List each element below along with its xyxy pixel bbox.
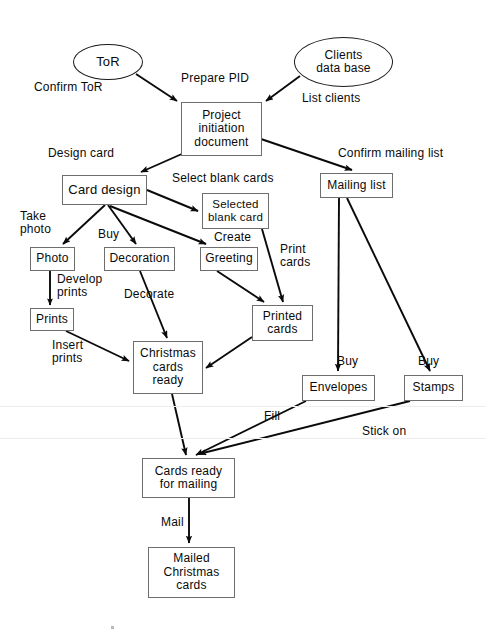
node-label-pid: Project initiation document xyxy=(192,109,250,149)
edge-label-create_greeting: Create xyxy=(214,231,251,244)
edge-label-fill: Fill xyxy=(264,410,280,423)
node-stamps[interactable]: Stamps xyxy=(404,375,463,401)
node-label-prints: Prints xyxy=(34,313,70,326)
scan-speck xyxy=(111,626,114,629)
edge-label-buy_decoration: Buy xyxy=(98,228,119,241)
node-label-envelopes: Envelopes xyxy=(308,381,370,394)
edge-label-confirm_tor: Confirm ToR xyxy=(34,81,103,94)
edge-label-take_photo: Take photo xyxy=(20,210,51,236)
scan-band-upper xyxy=(0,406,486,407)
node-cards_ready[interactable]: Cards ready for mailing xyxy=(142,458,235,498)
edge-label-mail: Mail xyxy=(161,516,184,529)
node-label-photo: Photo xyxy=(34,252,70,265)
node-label-selected_blank: Selected blank card xyxy=(206,198,265,224)
node-printed_cards[interactable]: Printed cards xyxy=(252,305,313,341)
node-label-cards_ready: Cards ready for mailing xyxy=(153,465,225,492)
node-envelopes[interactable]: Envelopes xyxy=(302,375,375,401)
node-label-printed_cards: Printed cards xyxy=(261,310,304,337)
node-label-clients_db: Clients data base xyxy=(314,49,373,76)
node-prints[interactable]: Prints xyxy=(30,308,74,331)
node-label-stamps: Stamps xyxy=(411,381,457,394)
edge-pid-to-card-design xyxy=(141,153,184,172)
node-decoration[interactable]: Decoration xyxy=(104,247,175,271)
node-selected_blank[interactable]: Selected blank card xyxy=(202,193,269,229)
node-photo[interactable]: Photo xyxy=(30,247,75,271)
node-label-card_design: Card design xyxy=(66,183,142,198)
edge-label-prepare_pid: Prepare PID xyxy=(181,72,249,85)
edge-card-design-to-selected-blank xyxy=(147,190,198,211)
edge-decoration-to-xmas-ready xyxy=(140,271,167,338)
node-label-tor: ToR xyxy=(94,55,122,70)
edge-label-buy_stamps: Buy xyxy=(418,355,439,368)
node-label-mailing_list: Mailing list xyxy=(325,179,387,192)
node-greeting[interactable]: Greeting xyxy=(200,247,258,271)
node-tor[interactable]: ToR xyxy=(73,44,143,80)
edge-greeting-to-printed-cards xyxy=(217,271,264,302)
flowchart-diagram: ToRClients data baseProject initiation d… xyxy=(0,0,486,636)
edge-label-print_cards: Print cards xyxy=(280,243,310,269)
edge-clients-db-to-pid xyxy=(266,76,300,101)
edge-xmas-ready-to-cards-ready xyxy=(172,394,186,455)
edge-mailing-list-to-envelopes xyxy=(338,198,339,371)
node-card_design[interactable]: Card design xyxy=(62,175,147,205)
edge-label-design_card: Design card xyxy=(48,147,114,160)
node-mailing_list[interactable]: Mailing list xyxy=(320,173,393,198)
node-pid[interactable]: Project initiation document xyxy=(181,102,262,156)
node-label-xmas_ready: Christmas cards ready xyxy=(138,347,198,387)
edge-tor-to-pid xyxy=(136,74,177,101)
scan-band-lower xyxy=(0,438,486,439)
node-xmas_ready[interactable]: Christmas cards ready xyxy=(133,341,203,394)
edge-mailing-list-to-stamps xyxy=(347,198,430,371)
edge-label-decorate: Decorate xyxy=(124,288,174,301)
edge-label-select_blank_cards: Select blank cards xyxy=(172,172,274,185)
node-label-decoration: Decoration xyxy=(107,252,171,265)
edge-envelopes-to-cards-ready xyxy=(196,401,306,455)
edge-printed-cards-to-xmas-ready xyxy=(206,337,252,368)
edge-label-list_clients: List clients xyxy=(302,92,360,105)
edge-label-develop_prints: Develop prints xyxy=(57,273,102,299)
edge-label-insert_prints: Insert prints xyxy=(52,339,83,365)
edge-label-stick_on: Stick on xyxy=(362,425,406,438)
node-mailed[interactable]: Mailed Christmas cards xyxy=(148,547,235,598)
edge-card-design-to-greeting xyxy=(110,206,206,244)
node-label-greeting: Greeting xyxy=(203,252,255,265)
edge-label-buy_envelopes: Buy xyxy=(337,355,358,368)
edge-label-confirm_mailing_list: Confirm mailing list xyxy=(338,147,443,160)
node-clients_db[interactable]: Clients data base xyxy=(294,37,393,87)
node-label-mailed: Mailed Christmas cards xyxy=(162,552,222,592)
